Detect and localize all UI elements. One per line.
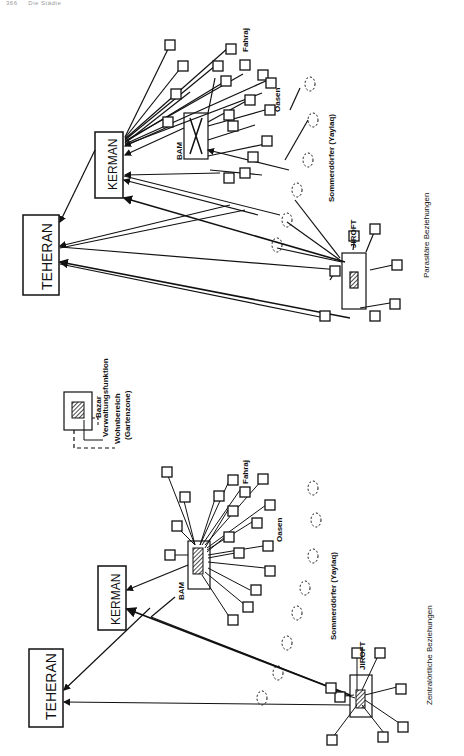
- legend-verwaltungsfunktion: Verwaltungsfunktion: [101, 358, 110, 437]
- caption-parasitic: Parasitäre Beziehungen: [422, 193, 431, 278]
- sommerdoerfer-label-bottom: Sommerdörfer (Yaylaq): [329, 552, 338, 640]
- panel-central: [29, 467, 408, 745]
- caption-central: Zentralörtliche Beziehungen: [425, 605, 434, 705]
- jiroft-label-top: JIROFT: [349, 219, 358, 248]
- kerman-label-bottom: KERMAN: [109, 574, 123, 625]
- diagram-canvas: TEHERAN KERMAN BAM JIROFT Fahraj Oasen S…: [0, 0, 464, 756]
- jiroft-label-bottom: JIROFT: [358, 641, 367, 670]
- legend-wohnbereich: Wohnbereich: [113, 393, 122, 444]
- panel-parasitic: [23, 40, 402, 321]
- teheran-label-top: TEHERAN: [39, 223, 55, 290]
- legend-gartenzone: (Gartenzone): [123, 390, 132, 440]
- oasen-label-top: Oasen: [273, 87, 282, 112]
- bam-label-bottom: BAM: [177, 581, 186, 600]
- fahraj-label-bottom: Fahraj: [241, 460, 250, 484]
- bam-label-top: BAM: [175, 141, 184, 160]
- oasen-label-bottom: Oasen: [275, 517, 284, 542]
- kerman-label-top: KERMAN: [106, 139, 120, 190]
- fahraj-label-top: Fahraj: [241, 28, 250, 52]
- sommerdoerfer-label-top: Sommerdörfer (Yaylaq): [327, 114, 336, 202]
- teheran-label-bottom: TEHERAN: [43, 653, 59, 720]
